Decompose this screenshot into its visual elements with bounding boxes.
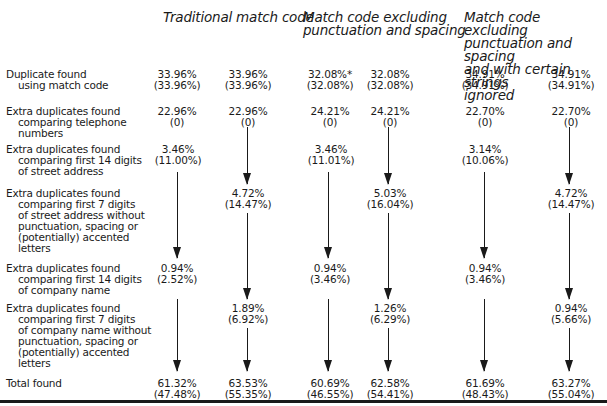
cell-line: (16.04%)	[355, 199, 425, 210]
header-line: punctuation and spacing	[464, 37, 607, 63]
row-label-line: letters	[6, 243, 145, 254]
cell-line: (6.92%)	[213, 314, 283, 325]
down-arrow-icon	[328, 172, 329, 258]
cell-line: (34.91%)	[450, 80, 520, 91]
cell-value: 22.70%(0)	[450, 106, 520, 128]
cell-value: 4.72%(14.47%)	[213, 188, 283, 210]
cell-value: 34.91%(34.91%)	[536, 69, 606, 91]
cell-line: (0)	[450, 117, 520, 128]
cell-value: 0.94%(5.66%)	[536, 303, 606, 325]
cell-line: (2.52%)	[142, 274, 212, 285]
cell-value: 4.72%(14.47%)	[536, 188, 606, 210]
cell-line: (0)	[536, 117, 606, 128]
cell-line: (14.47%)	[213, 199, 283, 210]
cell-value: 22.70%(0)	[536, 106, 606, 128]
cell-value: 22.96%(0)	[213, 106, 283, 128]
cell-line: (33.96%)	[142, 80, 212, 91]
cell-value: 0.94%(3.46%)	[450, 263, 520, 285]
cell-line: (6.29%)	[355, 314, 425, 325]
row-label-total: Total found	[6, 378, 62, 389]
header-traditional-match-code: Traditional match code	[163, 11, 314, 24]
down-arrow-icon	[569, 328, 570, 371]
total-value: 61.69%(48.43%)	[450, 378, 520, 400]
down-arrow-icon	[388, 127, 389, 184]
cell-line: (47.48%)	[142, 389, 212, 400]
cell-line: (14.47%)	[536, 199, 606, 210]
cell-value: 1.89%(6.92%)	[213, 303, 283, 325]
down-arrow-icon	[177, 299, 178, 371]
cell-line: (34.91%)	[536, 80, 606, 91]
bottom-rule	[0, 400, 607, 403]
cell-value: 1.26%(6.29%)	[355, 303, 425, 325]
cell-value: 33.96%(33.96%)	[142, 69, 212, 91]
cell-line: (11.01%)	[296, 155, 366, 166]
down-arrow-icon	[569, 127, 570, 184]
row-label-telephone: Extra duplicates found comparing telepho…	[6, 106, 126, 139]
down-arrow-icon	[177, 172, 178, 258]
down-arrow-icon	[484, 299, 485, 371]
cell-value: 3.46%(11.01%)	[296, 144, 366, 166]
down-arrow-icon	[569, 213, 570, 299]
cell-line: (55.35%)	[213, 389, 283, 400]
row-label-line: Total found	[6, 378, 62, 389]
row-label-line: of street address	[6, 166, 142, 177]
down-arrow-icon	[328, 299, 329, 371]
cell-value: 22.96%(0)	[142, 106, 212, 128]
down-arrow-icon	[484, 172, 485, 258]
cell-line: (33.96%)	[213, 80, 283, 91]
total-value: 63.53%(55.35%)	[213, 378, 283, 400]
cell-line: (5.66%)	[536, 314, 606, 325]
cell-line: (3.46%)	[295, 274, 365, 285]
header-line: Match code excluding	[464, 11, 607, 37]
cell-line: (48.43%)	[450, 389, 520, 400]
cell-line: (55.04%)	[536, 389, 606, 400]
cell-value: 3.46%(11.00%)	[143, 144, 213, 166]
cell-value: 24.21%(0)	[355, 106, 425, 128]
total-value: 61.32%(47.48%)	[142, 378, 212, 400]
row-label-line: letters	[6, 358, 151, 369]
total-value: 62.58%(54.41%)	[355, 378, 425, 400]
cell-value: 5.03%(16.04%)	[355, 188, 425, 210]
cell-line: (11.00%)	[143, 155, 213, 166]
cell-value: 34.91%(34.91%)	[450, 69, 520, 91]
down-arrow-icon	[247, 127, 248, 184]
row-label-line: using match code	[6, 80, 108, 91]
cell-value: 0.94%(3.46%)	[295, 263, 365, 285]
cell-value: 0.94%(2.52%)	[142, 263, 212, 285]
cell-value: 32.08%(32.08%)	[355, 69, 425, 91]
cell-line: (0)	[213, 117, 283, 128]
down-arrow-icon	[247, 328, 248, 371]
cell-line: (0)	[355, 117, 425, 128]
down-arrow-icon	[247, 213, 248, 299]
cell-line: (32.08%)	[355, 80, 425, 91]
row-label-line: of company name	[6, 285, 142, 296]
cell-value: 3.14%(10.06%)	[450, 144, 520, 166]
row-label-line: numbers	[6, 128, 126, 139]
row-label-company-7: Extra duplicates found comparing first 7…	[6, 303, 151, 369]
down-arrow-icon	[388, 213, 389, 299]
row-label-street-14: Extra duplicates found comparing first 1…	[6, 144, 142, 177]
row-label-company-14: Extra duplicates found comparing first 1…	[6, 263, 142, 296]
down-arrow-icon	[388, 328, 389, 371]
header-line: punctuation and spacing	[303, 24, 466, 37]
cell-line: (0)	[142, 117, 212, 128]
cell-line: (3.46%)	[450, 274, 520, 285]
cell-line: (54.41%)	[355, 389, 425, 400]
row-label-duplicate-found: Duplicate found using match code	[6, 69, 108, 91]
total-value: 63.27%(55.04%)	[536, 378, 606, 400]
cell-line: (10.06%)	[450, 155, 520, 166]
row-label-street-7: Extra duplicates found comparing first 7…	[6, 188, 145, 254]
header-label: Traditional match code	[163, 9, 314, 25]
cell-value: 33.96%(33.96%)	[213, 69, 283, 91]
header-excluding-punctuation: Match code excluding punctuation and spa…	[303, 11, 466, 37]
